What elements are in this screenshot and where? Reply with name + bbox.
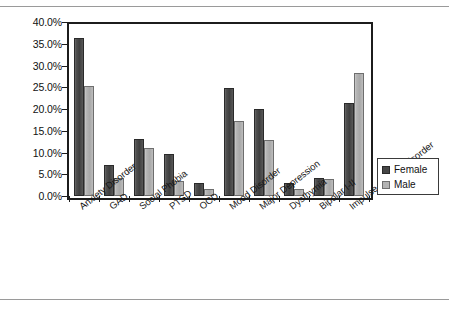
legend-item-label: Female — [394, 164, 427, 175]
bar-male — [354, 73, 364, 196]
legend-item-female: Female — [382, 162, 438, 177]
y-axis-tick-label: 30.0% — [6, 61, 62, 71]
chart-screenshot: 40.0%35.0%30.0%25.0%20.0%15.0%10.0%5.0%0… — [0, 0, 449, 312]
y-axis-tick-label: 15.0% — [6, 126, 62, 136]
y-axis-tick-label: 20.0% — [6, 104, 62, 114]
legend-swatch-icon — [382, 166, 390, 174]
bar-female — [74, 38, 84, 196]
chart-legend: FemaleMale — [377, 158, 439, 195]
y-axis-tick-label: 10.0% — [6, 148, 62, 158]
y-axis: 40.0%35.0%30.0%25.0%20.0%15.0%10.0%5.0%0… — [4, 0, 62, 312]
x-axis-tick-mark — [69, 196, 70, 202]
bar-male — [84, 86, 94, 196]
bar-female — [194, 183, 204, 196]
y-axis-tick-label: 25.0% — [6, 82, 62, 92]
legend-item-male: Male — [382, 177, 438, 192]
bar-male — [234, 121, 244, 196]
grouped-bar-chart: 40.0%35.0%30.0%25.0%20.0%15.0%10.0%5.0%0… — [0, 0, 449, 312]
y-axis-tick-label: 0.0% — [6, 191, 62, 201]
y-axis-tick-label: 35.0% — [6, 39, 62, 49]
y-axis-tick-label: 40.0% — [6, 17, 62, 27]
legend-swatch-icon — [382, 181, 390, 189]
bar-female — [224, 88, 234, 196]
legend-item-label: Male — [394, 179, 416, 190]
y-axis-tick-label: 5.0% — [6, 169, 62, 179]
bar-male — [144, 148, 154, 196]
bars-container — [69, 22, 369, 196]
